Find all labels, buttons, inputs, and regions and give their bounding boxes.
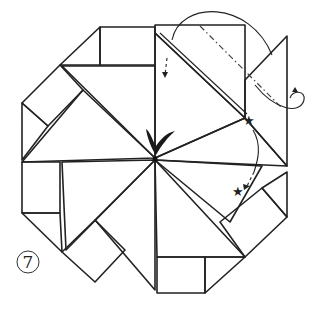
loop-arrow-head-icon [292,87,298,92]
pinwheel-lower-dark [95,160,155,290]
bottom-left-gray [22,213,62,252]
star-mark-icon: ★ [243,113,255,128]
top-white-rect [100,27,155,65]
left-upper-gray [22,103,48,160]
bottom-right-gray [205,257,245,293]
step-number-badge: 7 [17,251,39,273]
top-left-flap-white [22,65,83,126]
bottom-left-flap-white [62,220,125,282]
arrow-head-icon [162,72,168,78]
pinwheel-left-light [22,90,155,162]
pinwheel-upper-right-dark [155,118,287,166]
top-left-light-wedge [60,27,100,65]
valley-fold-line [200,26,282,108]
behind-loop-arrow [255,85,304,108]
bottom-white-rect [157,257,205,293]
step-number: 7 [23,252,34,272]
pinwheel-lower-right-light [155,160,245,257]
left-white-rect [22,162,60,213]
origami-step-diagram: ★ ★ 7 [0,0,319,313]
pinwheel-right-white [155,160,262,222]
flap-gray-triangle [245,36,287,166]
pinwheel-top-light [155,33,245,158]
right-light-triangle [262,172,287,217]
flap-white-square [155,25,245,118]
star-mark-icon-2: ★ [232,184,244,199]
